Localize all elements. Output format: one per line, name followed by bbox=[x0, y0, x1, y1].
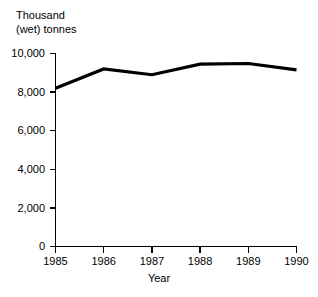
x-tick-label-1988: 1988 bbox=[188, 255, 212, 267]
y-tick-label-2000: 2,000 bbox=[17, 202, 45, 214]
x-tick-label-1985: 1985 bbox=[43, 255, 67, 267]
x-tick-label-1989: 1989 bbox=[236, 255, 260, 267]
y-tick-label-8000: 8,000 bbox=[17, 86, 45, 98]
x-tick-label-1990: 1990 bbox=[284, 255, 308, 267]
x-tick-label-1987: 1987 bbox=[140, 255, 164, 267]
plot-area: 0 2,000 4,000 6,000 8,000 10,000 1985 19… bbox=[0, 0, 318, 297]
y-tick-label-6000: 6,000 bbox=[17, 124, 45, 136]
y-tick-label-4000: 4,000 bbox=[17, 163, 45, 175]
y-tick-label-0: 0 bbox=[39, 240, 45, 252]
x-axis-title: Year bbox=[0, 272, 318, 285]
y-tick-label-10000: 10,000 bbox=[11, 47, 45, 59]
x-tick-label-1986: 1986 bbox=[91, 255, 115, 267]
line-chart-figure: Thousand (wet) tonnes 0 2,000 4,000 6,00… bbox=[0, 0, 318, 297]
data-series-line bbox=[56, 64, 297, 89]
